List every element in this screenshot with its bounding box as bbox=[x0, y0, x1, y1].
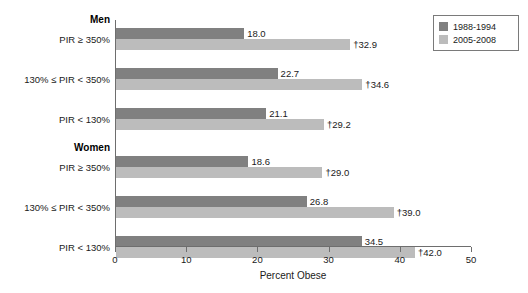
legend-item-2005-2008: 2005-2008 bbox=[439, 33, 513, 46]
group-heading-women: Women bbox=[3, 142, 110, 153]
bar-1988-1994 bbox=[116, 28, 244, 39]
bar-value-label: 21.1 bbox=[269, 108, 288, 119]
x-axis-tick-label: 40 bbox=[395, 254, 406, 265]
bar-2005-2008 bbox=[116, 119, 324, 130]
bar-value-label: 18.6 bbox=[251, 156, 270, 167]
legend-swatch-icon-1988-1994 bbox=[439, 22, 448, 31]
bar-value-label: 18.0 bbox=[247, 28, 266, 39]
bar-2005-2008 bbox=[116, 79, 362, 90]
category-label: PIR < 130% bbox=[3, 242, 110, 253]
x-axis-tick bbox=[257, 247, 258, 252]
bar-value-label: †29.0 bbox=[325, 167, 349, 178]
x-axis-tick-label: 10 bbox=[181, 254, 192, 265]
bar-value-label: †32.9 bbox=[353, 39, 377, 50]
x-axis-tick bbox=[186, 247, 187, 252]
x-axis-tick bbox=[115, 247, 116, 252]
bar-value-label: 22.7 bbox=[281, 68, 300, 79]
bar-2005-2008 bbox=[116, 247, 415, 258]
x-axis-tick bbox=[329, 247, 330, 252]
bar-value-label: †39.0 bbox=[397, 207, 421, 218]
bar-2005-2008 bbox=[116, 39, 350, 50]
bar-1988-1994 bbox=[116, 196, 307, 207]
x-axis-tick-label: 20 bbox=[252, 254, 263, 265]
bar-value-label: 26.8 bbox=[310, 196, 329, 207]
legend: 1988-1994 2005-2008 bbox=[433, 15, 519, 51]
x-axis-tick bbox=[471, 247, 472, 252]
legend-swatch-icon-2005-2008 bbox=[439, 35, 448, 44]
bar-1988-1994 bbox=[116, 108, 266, 119]
x-axis-tick-label: 50 bbox=[466, 254, 477, 265]
legend-item-1988-1994: 1988-1994 bbox=[439, 20, 513, 33]
x-axis-title: Percent Obese bbox=[115, 270, 471, 281]
x-axis-tick bbox=[400, 247, 401, 252]
bar-value-label: †29.2 bbox=[327, 119, 351, 130]
bar-value-label: †42.0 bbox=[418, 247, 442, 258]
category-label: 130% ≤ PIR < 350% bbox=[3, 202, 110, 213]
x-axis-line bbox=[115, 246, 471, 247]
bar-chart: MenWomenPIR ≥ 350%130% ≤ PIR < 350%PIR <… bbox=[0, 0, 528, 293]
category-label: PIR ≥ 350% bbox=[3, 162, 110, 173]
category-label: PIR < 130% bbox=[3, 114, 110, 125]
x-axis-tick-label: 0 bbox=[112, 254, 117, 265]
group-heading-men: Men bbox=[3, 14, 110, 25]
bar-1988-1994 bbox=[116, 156, 248, 167]
category-label: 130% ≤ PIR < 350% bbox=[3, 74, 110, 85]
legend-label-2005-2008: 2005-2008 bbox=[453, 35, 496, 45]
category-labels-column: MenWomenPIR ≥ 350%130% ≤ PIR < 350%PIR <… bbox=[0, 0, 110, 293]
bar-1988-1994 bbox=[116, 68, 278, 79]
x-axis-tick-label: 30 bbox=[323, 254, 334, 265]
bar-2005-2008 bbox=[116, 167, 322, 178]
category-label: PIR ≥ 350% bbox=[3, 34, 110, 45]
bar-2005-2008 bbox=[116, 207, 394, 218]
bar-value-label: †34.6 bbox=[365, 79, 389, 90]
legend-label-1988-1994: 1988-1994 bbox=[453, 22, 496, 32]
